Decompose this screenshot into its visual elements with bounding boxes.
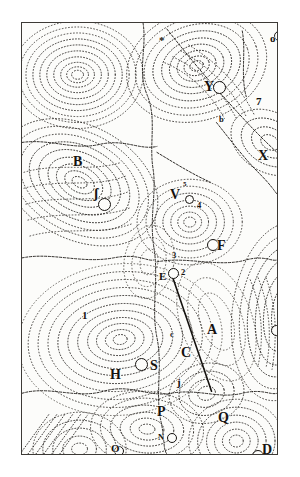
label-star-top-right: o	[270, 33, 276, 44]
label-B: B	[73, 155, 82, 169]
star-Y	[213, 81, 226, 94]
plate-interior: .flow{fill:none;stroke:#1a1714;stroke-wi…	[22, 23, 277, 454]
label-F: F	[217, 239, 226, 253]
star-N	[167, 433, 177, 443]
label-E: E	[159, 271, 166, 282]
label-D: D	[262, 443, 272, 454]
label-5: 5	[183, 181, 187, 188]
label-j: j	[177, 377, 181, 388]
label-N: N	[158, 433, 164, 442]
star-L	[271, 325, 278, 336]
label-O-left: O	[111, 443, 120, 454]
star-E	[168, 268, 179, 279]
engraving-plate: .flow{fill:none;stroke:#1a1714;stroke-wi…	[21, 22, 278, 455]
label-C: C	[181, 346, 191, 360]
label-mark-top: *	[159, 35, 165, 46]
label-V: V	[170, 188, 180, 202]
label-X: X	[258, 149, 268, 163]
label-S: S	[150, 359, 158, 373]
star-long-s	[98, 198, 111, 211]
label-long-s: ʃ	[94, 187, 98, 201]
label-3: 3	[172, 251, 176, 260]
label-7: 7	[256, 96, 262, 107]
star-V	[185, 195, 194, 204]
label-1: 1	[82, 310, 88, 321]
label-Y: Y	[204, 80, 214, 94]
star-S	[135, 358, 148, 371]
label-H: H	[110, 368, 121, 382]
figure-page: .flow{fill:none;stroke:#1a1714;stroke-wi…	[0, 0, 300, 477]
label-Q: Q	[218, 411, 229, 425]
label-b: b	[219, 115, 224, 124]
label-4: 4	[197, 201, 201, 210]
comet-path-layer	[22, 23, 277, 454]
label-A: A	[207, 323, 217, 337]
label-P: P	[157, 405, 166, 419]
label-c: c	[170, 330, 174, 339]
label-2: 2	[181, 268, 185, 277]
comet-trajectory	[173, 278, 212, 391]
